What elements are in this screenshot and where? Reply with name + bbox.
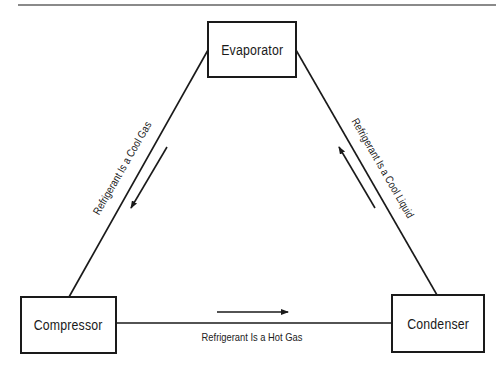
condenser-label: Condenser bbox=[407, 316, 469, 332]
evaporator-label: Evaporator bbox=[221, 42, 283, 58]
edge-condenser-evaporator bbox=[296, 50, 437, 295]
edge-evaporator-compressor bbox=[69, 50, 208, 297]
evaporator-box: Evaporator bbox=[207, 21, 297, 78]
compressor-box: Compressor bbox=[20, 296, 117, 354]
edge-label-hot-gas: Refrigerant Is a Hot Gas bbox=[193, 331, 312, 343]
compressor-label: Compressor bbox=[34, 317, 103, 333]
condenser-box: Condenser bbox=[391, 294, 485, 353]
